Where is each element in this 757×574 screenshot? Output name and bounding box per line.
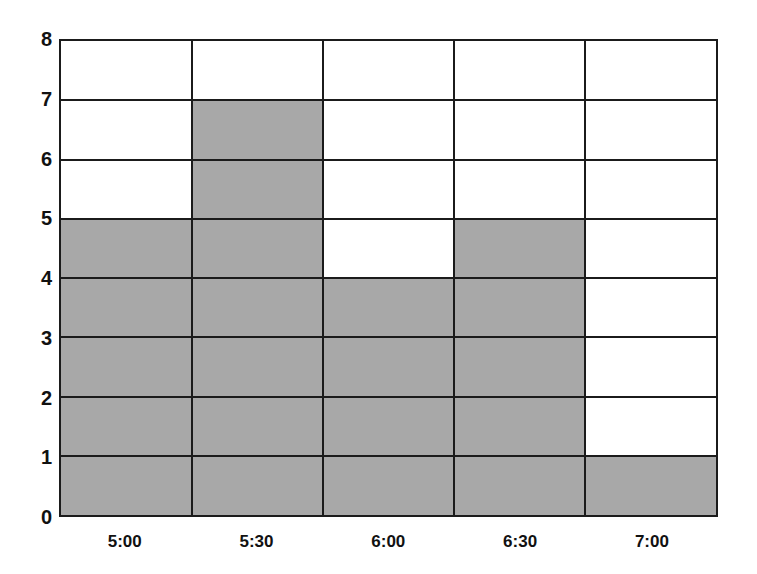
y-tick-label-8: 8 — [0, 28, 52, 51]
y-axis: 8 7 6 5 4 3 2 1 0 — [0, 0, 52, 574]
y-tick-label-6: 6 — [0, 147, 52, 170]
grid-line-horizontal — [61, 99, 716, 101]
x-tick-label-1: 5:30 — [239, 532, 273, 552]
x-tick-label-4: 7:00 — [635, 532, 669, 552]
y-tick-label-2: 2 — [0, 386, 52, 409]
grid-line-vertical — [322, 41, 324, 515]
x-tick-label-2: 6:00 — [371, 532, 405, 552]
plot-area — [59, 39, 718, 517]
x-tick-label-3: 6:30 — [503, 532, 537, 552]
grid-line-vertical — [584, 41, 586, 515]
grid-line-horizontal — [61, 336, 716, 338]
bar-chart: 8 7 6 5 4 3 2 1 0 5:00 5:30 6:00 6:30 7:… — [0, 0, 757, 574]
y-tick-label-0: 0 — [0, 506, 52, 529]
y-tick-label-4: 4 — [0, 267, 52, 290]
grid-line-horizontal — [61, 218, 716, 220]
grid-line-horizontal — [61, 455, 716, 457]
grid-line-horizontal — [61, 396, 716, 398]
grid-line-vertical — [453, 41, 455, 515]
grid-line-vertical — [191, 41, 193, 515]
y-tick-label-5: 5 — [0, 207, 52, 230]
grid-line-horizontal — [61, 277, 716, 279]
y-tick-label-7: 7 — [0, 87, 52, 110]
y-tick-label-3: 3 — [0, 326, 52, 349]
grid-lines — [61, 41, 716, 515]
grid-line-horizontal — [61, 159, 716, 161]
x-tick-label-0: 5:00 — [108, 532, 142, 552]
y-tick-label-1: 1 — [0, 446, 52, 469]
